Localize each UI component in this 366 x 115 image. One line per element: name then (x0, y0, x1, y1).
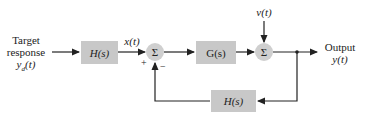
output-label-line1: Output (320, 41, 360, 53)
summing-junction-2: Σ (255, 43, 273, 61)
diagram-wires (0, 0, 366, 115)
input-label: Target response yd(t) (2, 34, 50, 75)
minus-sign: − (160, 62, 166, 72)
input-label-line2: response (2, 46, 50, 58)
plant-block: G(s) (196, 41, 236, 64)
plus-sign: + (141, 58, 147, 68)
prefilter-block: H(s) (81, 41, 118, 64)
feedback-block: H(s) (211, 90, 256, 112)
x-signal-label: x(t) (122, 35, 142, 47)
input-signal: yd(t) (2, 58, 50, 75)
disturbance-label: v(t) (254, 6, 274, 18)
output-label: Output y(t) (320, 41, 360, 65)
summing-junction-1: Σ (146, 43, 164, 61)
input-label-line1: Target (2, 34, 50, 46)
output-signal: y(t) (320, 53, 360, 65)
